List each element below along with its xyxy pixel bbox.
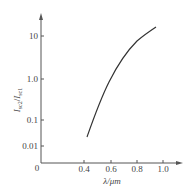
x-tick-label: 0.8 (131, 164, 143, 174)
y-tick-label: 10 (29, 31, 39, 41)
y-axis-label: Isc2/Isc1 (12, 88, 23, 114)
data-curve (87, 27, 156, 137)
x-axis-arrow-icon (176, 161, 183, 165)
y-axis-arrow-icon (39, 13, 43, 20)
x-axis-label: λ/μm (102, 176, 121, 186)
y-tick-label: 0.1 (27, 115, 38, 125)
y-tick-label: 0.01 (22, 141, 38, 151)
x-tick-label: 0.4 (78, 164, 90, 174)
y-axis (39, 13, 44, 163)
y-axis-label-sub: sc2 (17, 101, 23, 109)
x-tick-label: 1.0 (157, 164, 169, 174)
origin-label: 0 (35, 163, 40, 173)
svg-text:Isc2/Isc1: Isc2/Isc1 (12, 88, 23, 114)
chart: 10 1.0 0.1 0.01 0 0.4 0.6 0.8 1.0 λ/μm I… (0, 0, 190, 196)
x-tick-label: 0.6 (105, 164, 117, 174)
y-tick-label: 1.0 (27, 74, 39, 84)
y-axis-label-sub: sc1 (17, 88, 23, 96)
